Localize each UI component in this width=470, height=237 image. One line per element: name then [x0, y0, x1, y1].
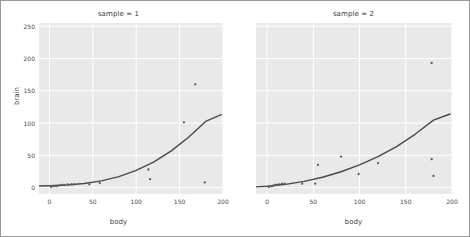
x-tick-label: 200: [213, 198, 233, 205]
x-tick-label: 50: [83, 198, 103, 205]
y-tick-label: 100: [17, 120, 35, 127]
x-tick-label: 200: [442, 198, 462, 205]
facet-panel-sample-1: sample = 1 050100150200250 050100150200 …: [1, 1, 236, 237]
plot-area-sample-1: [39, 23, 223, 194]
x-tick-label: 50: [303, 198, 323, 205]
x-axis-title: body: [1, 218, 236, 226]
y-tick-label: 50: [17, 152, 35, 159]
plot-area-sample-2: [256, 23, 452, 194]
x-tick-label: 150: [396, 198, 416, 205]
plot-svg-sample-2: [256, 23, 452, 194]
plot-svg-sample-1: [39, 23, 223, 194]
x-tick-label: 150: [170, 198, 190, 205]
x-tick-label: 100: [350, 198, 370, 205]
y-axis-title: brain: [13, 87, 21, 105]
figure-frame: sample = 1 050100150200250 050100150200 …: [0, 0, 470, 237]
facet-panel-sample-2: sample = 2 050100150200 body: [236, 1, 470, 237]
x-tick-label: 0: [257, 198, 277, 205]
x-tick-label: 0: [39, 198, 59, 205]
facet-title-sample-2: sample = 2: [236, 10, 470, 18]
x-axis-title: body: [236, 218, 470, 226]
y-tick-label: 0: [17, 184, 35, 191]
facet-title-sample-1: sample = 1: [1, 10, 236, 18]
x-tick-label: 100: [126, 198, 146, 205]
y-tick-label: 250: [17, 23, 35, 30]
y-tick-label: 200: [17, 55, 35, 62]
